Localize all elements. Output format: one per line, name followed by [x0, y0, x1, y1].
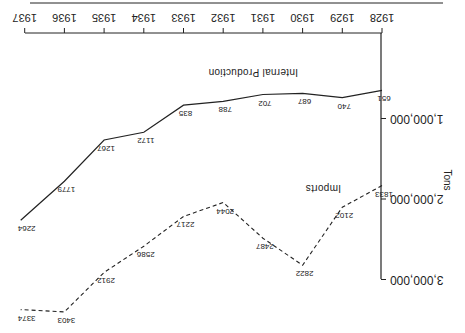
- y-tick-label: 2,000,000: [390, 192, 444, 206]
- line-chart: 1928192919301931193219331934193519361937…: [0, 0, 465, 333]
- x-tick-label: 1929: [330, 12, 354, 24]
- data-point-label: 2822: [295, 269, 313, 278]
- point-labels: 6517406877027888351172126717792264183321…: [17, 94, 393, 325]
- x-tick-label: 1935: [92, 12, 116, 24]
- data-point-label: 2044: [216, 207, 234, 216]
- data-point-label: 788: [218, 105, 232, 114]
- internal-production-line: [21, 90, 382, 220]
- x-axis-ticks: 1928192919301931193219331934193519361937: [12, 12, 394, 33]
- y-axis-title: Tons: [442, 169, 453, 190]
- x-tick-label: 1933: [171, 12, 195, 24]
- legend-internal-production: Internal Production: [208, 67, 298, 78]
- data-point-label: 1172: [137, 136, 155, 145]
- y-tick-label: 1,000,000: [390, 112, 444, 126]
- data-point-label: 1833: [375, 190, 393, 199]
- x-tick-label: 1936: [52, 12, 76, 24]
- data-point-label: 2102: [335, 211, 353, 220]
- data-point-label: 2487: [255, 242, 273, 251]
- data-point-label: 687: [297, 97, 311, 106]
- x-tick-label: 1934: [132, 12, 156, 24]
- x-tick-label: 1928: [370, 12, 394, 24]
- y-tick-label: 3,000,000: [390, 273, 444, 287]
- data-point-label: 2912: [97, 276, 115, 285]
- legend-imports: Imports: [306, 183, 341, 194]
- data-point-label: 702: [258, 99, 272, 108]
- x-tick-label: 1931: [251, 12, 275, 24]
- data-point-label: 1779: [57, 185, 75, 194]
- data-point-label: 3374: [17, 314, 35, 323]
- x-tick-label: 1932: [211, 12, 235, 24]
- data-point-label: 740: [337, 102, 351, 111]
- data-point-label: 1267: [97, 144, 115, 153]
- imports-line: [21, 186, 382, 312]
- data-point-label: 835: [178, 109, 192, 118]
- data-point-label: 3403: [57, 316, 75, 325]
- x-tick-label: 1930: [290, 12, 314, 24]
- data-point-label: 651: [377, 94, 391, 103]
- data-point-label: 2586: [136, 250, 154, 259]
- data-point-label: 2217: [176, 220, 194, 229]
- x-tick-label: 1937: [12, 12, 36, 24]
- data-point-label: 2264: [17, 224, 35, 233]
